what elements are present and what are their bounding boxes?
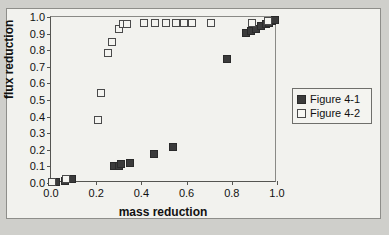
data-point <box>104 49 112 57</box>
x-tick <box>96 181 97 185</box>
x-tick-label: 0.0 <box>43 187 58 199</box>
data-point <box>150 150 158 158</box>
legend-label: Figure 4-1 <box>310 93 360 105</box>
data-point <box>97 89 105 97</box>
x-tick <box>232 181 233 185</box>
data-point <box>223 55 231 63</box>
x-tick-label: 0.8 <box>224 187 239 199</box>
y-tick <box>47 100 51 101</box>
y-tick <box>47 67 51 68</box>
data-point <box>180 19 188 27</box>
y-tick <box>47 117 51 118</box>
legend-item: Figure 4-1 <box>297 92 367 106</box>
y-tick <box>47 166 51 167</box>
y-tick <box>47 50 51 51</box>
x-tick <box>277 181 278 185</box>
x-tick-label: 1.0 <box>269 187 284 199</box>
y-tick-label: 0.4 <box>30 111 45 123</box>
scatter-chart: flux reduction 0.00.10.20.30.40.50.60.70… <box>0 0 389 235</box>
data-point <box>117 160 125 168</box>
y-tick-label: 0.3 <box>30 127 45 139</box>
y-tick <box>47 133 51 134</box>
y-tick <box>47 150 51 151</box>
data-point <box>248 19 256 27</box>
y-tick-label: 1.0 <box>30 11 45 23</box>
y-tick <box>47 83 51 84</box>
y-tick-label: 0.2 <box>30 144 45 156</box>
data-point <box>162 19 170 27</box>
data-point <box>126 159 134 167</box>
y-tick-label: 0.8 <box>30 44 45 56</box>
y-tick-label: 0.9 <box>30 28 45 40</box>
x-tick-label: 0.4 <box>134 187 149 199</box>
data-point <box>48 178 56 186</box>
figure-page: flux reduction 0.00.10.20.30.40.50.60.70… <box>0 0 389 235</box>
x-tick-label: 0.2 <box>89 187 104 199</box>
y-axis-title: flux reduction <box>2 20 16 99</box>
data-point <box>123 20 131 28</box>
x-tick <box>141 181 142 185</box>
data-point <box>151 19 159 27</box>
y-tick-label: 0.1 <box>30 160 45 172</box>
y-tick-label: 0.6 <box>30 77 45 89</box>
y-tick <box>47 34 51 35</box>
x-axis-title: mass reduction <box>50 205 276 219</box>
data-point <box>62 175 70 183</box>
y-tick-label: 0.5 <box>30 94 45 106</box>
data-point <box>140 19 148 27</box>
legend-item: Figure 4-2 <box>297 106 367 120</box>
legend-marker-icon <box>297 109 306 118</box>
legend-marker-icon <box>297 95 306 104</box>
data-point <box>264 17 272 25</box>
legend: Figure 4-1Figure 4-2 <box>292 88 372 124</box>
plot-area: 0.00.10.20.30.40.50.60.70.80.91.0 0.00.2… <box>50 16 276 182</box>
y-tick-label: 0.7 <box>30 61 45 73</box>
data-point <box>108 38 116 46</box>
data-point <box>94 116 102 124</box>
x-tick <box>187 181 188 185</box>
data-point <box>188 19 196 27</box>
y-tick <box>47 17 51 18</box>
data-point <box>172 19 180 27</box>
x-tick-label: 0.6 <box>179 187 194 199</box>
data-point <box>207 19 215 27</box>
data-point <box>169 143 177 151</box>
legend-label: Figure 4-2 <box>310 107 360 119</box>
